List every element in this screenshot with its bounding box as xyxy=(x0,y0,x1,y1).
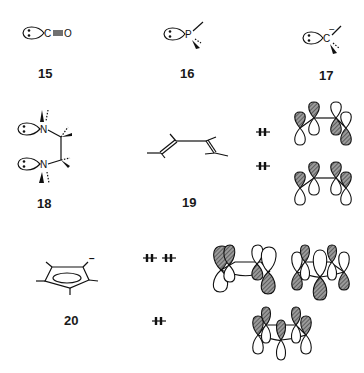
lone-pair-electron xyxy=(308,34,311,37)
bond xyxy=(193,22,203,31)
orbital-19-upper xyxy=(295,102,352,145)
bond xyxy=(48,160,61,164)
lone-pair-electron xyxy=(28,34,31,37)
lone-pair-electron xyxy=(23,125,26,128)
compound-label-17: 17 xyxy=(319,68,333,83)
lone-pair-lobe xyxy=(164,28,185,40)
molecule-18: N N xyxy=(18,110,72,183)
electron-pair-20-degenerate-a xyxy=(143,254,157,262)
orbital-20-lowest xyxy=(253,307,312,360)
lone-pair-lobe xyxy=(303,32,323,44)
orbital-20-degenerate-a xyxy=(213,245,276,294)
compound-label-15: 15 xyxy=(38,66,52,81)
electron-pair-19-lower xyxy=(256,162,270,170)
compound-label-20: 20 xyxy=(64,313,78,328)
lone-pair-electron xyxy=(23,160,26,163)
compound-label-19: 19 xyxy=(182,195,196,210)
hash-bond xyxy=(333,43,339,48)
bond xyxy=(48,130,61,137)
atom-n: N xyxy=(40,124,47,135)
molecule-20: − xyxy=(36,253,98,295)
lone-pair-electron xyxy=(308,39,311,42)
lone-pair-lobe xyxy=(23,27,44,39)
lone-pair-electron xyxy=(23,165,26,168)
lone-pair-lobe xyxy=(18,158,40,170)
molecule-19 xyxy=(147,134,228,158)
atom-p: P xyxy=(185,29,192,40)
orbital-diagram: C O P C − N xyxy=(0,0,364,373)
lone-pair-lobe xyxy=(18,123,40,135)
bond xyxy=(205,153,215,154)
lone-pair-electron xyxy=(169,30,172,33)
atom-c: C xyxy=(44,28,51,39)
hash-bond xyxy=(195,39,201,43)
bond xyxy=(206,137,216,141)
molecule-17: C − xyxy=(303,24,341,54)
ring xyxy=(45,267,89,288)
lone-pair-electron xyxy=(28,29,31,32)
hash-bond xyxy=(46,110,48,121)
wedge-bond xyxy=(39,172,44,183)
atom-o: O xyxy=(64,28,72,39)
orbital-19-lower xyxy=(295,162,352,205)
hash-bond xyxy=(61,158,70,160)
compound-label-18: 18 xyxy=(37,196,51,211)
compound-label-16: 16 xyxy=(180,66,194,81)
bond xyxy=(170,134,176,141)
electron-pair-20-lowest xyxy=(152,317,166,325)
wedge-bond xyxy=(61,160,70,168)
electron-pair-20-degenerate-b xyxy=(162,254,176,262)
lone-pair-electron xyxy=(23,130,26,133)
lone-pair-electron xyxy=(169,35,172,38)
negative-charge: − xyxy=(89,253,95,264)
bond xyxy=(215,153,228,156)
electron-pair-19-upper xyxy=(256,128,270,136)
molecule-15: C O xyxy=(23,27,72,39)
aromatic-ring xyxy=(53,273,81,283)
hash-bond xyxy=(47,172,49,183)
orbital-20-degenerate-b xyxy=(292,245,350,300)
atom-n: N xyxy=(40,159,47,170)
molecule-16: P xyxy=(164,22,203,49)
electron-pair-markers xyxy=(143,128,270,325)
wedge-bond xyxy=(40,110,44,122)
